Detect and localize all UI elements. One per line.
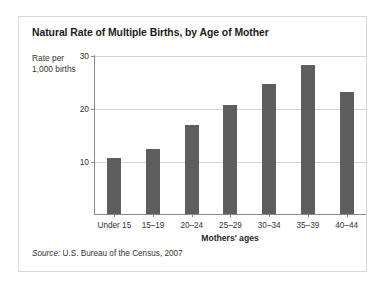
x-tick-mark [192,214,193,217]
bar [146,149,160,214]
y-tick-label-30: 30 [80,51,89,61]
bar-slot: 20–24 [172,55,211,214]
x-tick-mark [269,214,270,217]
bar [262,84,276,214]
bar [185,125,199,214]
bar-slot: Under 15 [95,55,134,214]
x-tick-mark [347,214,348,217]
y-tick-mark-20 [91,109,94,110]
bar [340,92,354,214]
x-tick-mark [308,214,309,217]
y-tick-mark-30 [91,56,94,57]
plot-area: 102030 Under 1515–1920–2425–2930–3435–39… [94,55,366,215]
source-note: Source: U.S. Bureau of the Census, 2007 [32,249,183,258]
x-tick-label: 35–39 [297,221,320,230]
y-tick-mark-10 [91,162,94,163]
x-tick-mark [153,214,154,217]
x-tick-label: 30–34 [258,221,281,230]
y-axis-label-line-2: 1,000 births [32,64,76,75]
x-tick-label: 15–19 [142,221,165,230]
x-tick-mark [230,214,231,217]
x-tick-label: 20–24 [180,221,203,230]
y-tick-label-10: 10 [80,157,89,167]
source-prefix: Source: [32,249,60,258]
bar [223,105,237,214]
x-tick-mark [114,214,115,217]
bar-slot: 25–29 [211,55,250,214]
y-tick-label-20: 20 [80,104,89,114]
x-tick-label: 40–44 [335,221,358,230]
y-axis-label-line-1: Rate per [32,53,76,64]
bar-slot: 15–19 [134,55,173,214]
bar [107,158,121,214]
x-tick-label: Under 15 [98,221,132,230]
source-text: U.S. Bureau of the Census, 2007 [60,249,182,258]
chart-figure: Natural Rate of Multiple Births, by Age … [18,16,367,272]
bar-slot: 40–44 [327,55,366,214]
x-tick-label: 25–29 [219,221,242,230]
y-axis-label: Rate per 1,000 births [32,53,76,75]
x-axis-title: Mothers' ages [94,233,366,243]
bar [301,65,315,214]
bar-slot: 30–34 [250,55,289,214]
bars-group: Under 1515–1920–2425–2930–3435–3940–44 [95,55,366,214]
bar-slot: 35–39 [289,55,328,214]
chart-title: Natural Rate of Multiple Births, by Age … [32,27,269,38]
